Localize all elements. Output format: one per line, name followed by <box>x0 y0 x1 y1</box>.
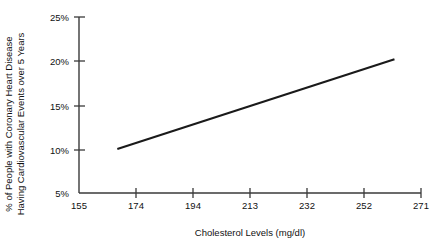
x-tick-label-252: 252 <box>356 200 372 211</box>
y-tick-label-10: 10% <box>50 145 70 156</box>
x-axis-tick-labels: 155 174 194 213 232 252 271 <box>71 200 429 211</box>
y-axis-title-line-1: % of People with Coronary Heart Disease <box>3 36 14 211</box>
y-axis-tick-labels: 25% 20% 15% 10% 5% <box>50 12 70 199</box>
chart-container: % of People with Coronary Heart Disease … <box>0 0 442 249</box>
x-tick-label-155: 155 <box>71 200 87 211</box>
y-axis-title: % of People with Coronary Heart Disease … <box>3 32 26 215</box>
x-tick-label-232: 232 <box>299 200 315 211</box>
data-series-line <box>117 59 394 149</box>
x-axis-title: Cholesterol Levels (mg/dl) <box>195 227 305 238</box>
y-tick-label-15: 15% <box>50 101 70 112</box>
y-tick-label-20: 20% <box>50 56 70 67</box>
x-tick-label-194: 194 <box>185 200 201 211</box>
line-chart: % of People with Coronary Heart Disease … <box>0 0 442 249</box>
y-axis-title-line-2: Having Cardiovascular Events over 5 Year… <box>15 32 26 215</box>
x-tick-label-213: 213 <box>242 200 258 211</box>
y-tick-label-5: 5% <box>55 188 69 199</box>
x-tick-label-271: 271 <box>413 200 429 211</box>
y-tick-label-25: 25% <box>50 12 70 23</box>
x-tick-label-174: 174 <box>128 200 144 211</box>
